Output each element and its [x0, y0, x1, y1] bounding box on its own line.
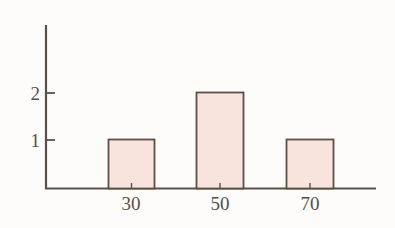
- bar-70: [287, 140, 334, 189]
- bar-chart: 2 1 30 50 70: [0, 0, 395, 228]
- bar-50: [197, 93, 244, 189]
- x-tick-label-70: 70: [280, 194, 340, 213]
- x-tick-label-30: 30: [101, 194, 161, 213]
- y-tick-label-2: 2: [14, 84, 40, 103]
- bar-30: [109, 140, 155, 189]
- y-tick-label-1: 1: [14, 131, 40, 150]
- x-tick-label-50: 50: [190, 194, 250, 213]
